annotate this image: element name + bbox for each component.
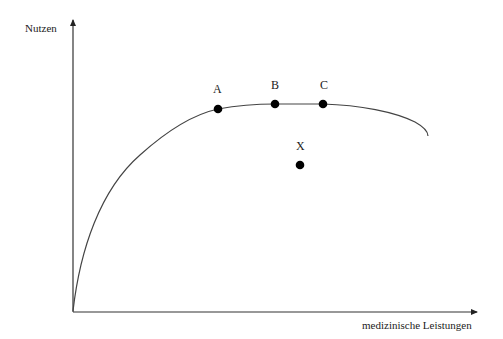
y-axis-label: Nutzen bbox=[25, 22, 57, 35]
point-b-marker bbox=[271, 100, 280, 109]
point-b-label: B bbox=[271, 79, 279, 92]
point-x-label: X bbox=[296, 140, 305, 153]
point-a-marker bbox=[214, 105, 223, 114]
point-c-marker bbox=[319, 100, 328, 109]
diagram-canvas bbox=[0, 0, 503, 339]
point-a-label: A bbox=[213, 83, 222, 96]
point-c-label: C bbox=[320, 79, 328, 92]
utility-curve bbox=[73, 104, 428, 311]
x-axis-label: medizinische Leistungen bbox=[362, 319, 472, 332]
point-x-marker bbox=[296, 161, 305, 170]
